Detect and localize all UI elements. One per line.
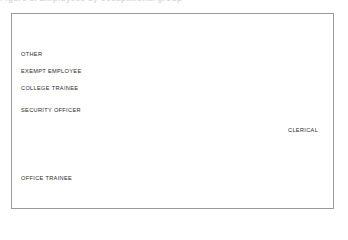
pie-label-other: OTHER xyxy=(21,51,42,57)
pie-label-security-officer: SECURITY OFFICER xyxy=(21,107,81,113)
pie-label-office-trainee: OFFICE TRAINEE xyxy=(21,175,72,181)
pie-label-clerical: CLERICAL xyxy=(288,127,318,133)
pie-label-college-trainee: COLLEGE TRAINEE xyxy=(21,85,78,91)
pie-label-exempt-employee: EXEMPT EMPLOYEE xyxy=(21,68,81,74)
